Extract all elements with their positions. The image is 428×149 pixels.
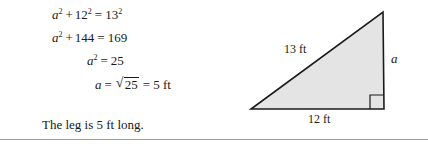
exponent: 2 [59,7,63,16]
equals-sign: = [105,77,112,92]
equation-line-2-content: a2+144=169 [52,31,127,44]
exponent: 2 [94,53,98,62]
hypotenuse-label: 13 ft [284,43,306,55]
variable-a: a [95,77,102,92]
triangle-shape [251,12,384,109]
exponent: 2 [88,7,92,16]
vertical-leg-label: a [391,52,398,65]
term-25: 25 [111,53,124,68]
equation-line-3: a2=25 [0,54,205,77]
term-144: 144 [75,30,95,45]
equation-line-2: a2+144=169 [0,31,205,54]
radical-sign-icon: √ [116,76,124,90]
base-label: 12 ft [308,113,330,125]
equals-sign: = [101,53,108,68]
equation-line-1-content: a2+122=132 [52,8,122,21]
result-5-ft: 5 ft [153,77,171,92]
equation-line-1: a2+122=132 [0,8,205,31]
solution-steps: a2+122=132 a2+144=169 a2=25 a=√25=5 ft T… [0,8,205,100]
exponent: 2 [118,7,122,16]
conclusion-sentence: The leg is 5 ft long. [42,118,144,131]
radicand-25: 25 [124,77,139,93]
term-13: 13 [105,7,118,22]
equation-line-3-content: a2=25 [87,54,124,67]
equals-sign: = [95,7,102,22]
horizontal-divider [0,139,428,140]
equals-sign: = [143,77,150,92]
term-12: 12 [75,7,88,22]
right-triangle-figure: 13 ft a 12 ft [228,0,428,135]
equals-sign: = [97,30,104,45]
term-169: 169 [108,30,128,45]
equation-line-4: a=√25=5 ft [0,77,205,100]
plus-operator: + [66,7,73,22]
worked-example-page: a2+122=132 a2+144=169 a2=25 a=√25=5 ft T… [0,0,428,149]
plus-operator: + [66,30,73,45]
square-root-expression: √25 [116,77,139,93]
exponent: 2 [59,30,63,39]
equation-line-4-content: a=√25=5 ft [95,77,171,93]
